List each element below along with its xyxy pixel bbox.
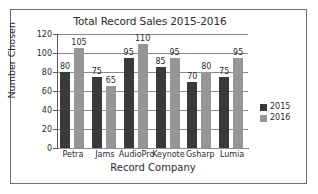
bar-value-label: 70 [181,72,203,81]
legend-item[interactable]: 2016 [260,114,300,122]
bar-value-label: 65 [100,76,122,85]
bar-group: 8595 [153,34,185,148]
y-axis-tick-label: 20 [30,125,52,134]
bar-group: 95110 [121,34,153,148]
bar[interactable] [74,48,84,148]
chart-legend: 20152016 [260,103,300,125]
y-axis-tick-label: 0 [30,144,52,153]
chart-title: Total Record Sales 2015-2016 [45,15,255,27]
x-axis-title: Record Company [57,162,249,173]
bar[interactable] [60,72,70,148]
bar-group: 7595 [216,34,248,148]
bar[interactable] [156,67,166,148]
bar-group: 80105 [57,34,89,148]
bar-value-label: 85 [150,57,172,66]
legend-swatch-icon [260,115,267,122]
x-axis-category-label: AudioPro [119,150,154,159]
bar[interactable] [170,58,180,148]
bar-value-label: 80 [54,62,76,71]
bar-value-label: 105 [68,38,90,47]
y-axis-tick-mark [53,34,58,35]
legend-item[interactable]: 2015 [260,103,300,111]
y-axis-tick-label: 100 [30,49,52,58]
legend-swatch-icon [260,104,267,111]
bar-group: 7080 [184,34,216,148]
y-axis-tick-mark [53,148,58,149]
x-axis-category-label: Gsharp [186,150,215,159]
bar[interactable] [201,72,211,148]
y-axis-title: Number Chosen [6,29,17,99]
y-axis-tick-label: 40 [30,106,52,115]
y-axis-tick-label: 120 [30,30,52,39]
bar[interactable] [187,82,197,149]
y-axis-tick-mark [53,53,58,54]
bar[interactable] [219,77,229,148]
x-axis-category-label: Jams [95,150,114,159]
bar[interactable] [233,58,243,148]
x-axis-category-label: Lumia [220,150,244,159]
x-axis-category-label: Petra [63,150,84,159]
y-axis-tick-mark [53,110,58,111]
y-axis-tick-label: 60 [30,87,52,96]
bar-value-label: 110 [132,34,154,43]
bar-value-label: 95 [227,48,249,57]
y-axis-tick-mark [53,129,58,130]
legend-item-label: 2015 [270,103,290,111]
plot-area: 80105756595110859570807595 [57,34,248,148]
chart-screenshot: Total Record Sales 2015-2016 Number Chos… [0,0,318,194]
bar-value-label: 95 [118,48,140,57]
gridline [57,148,248,149]
y-axis-tick-mark [53,72,58,73]
bar[interactable] [124,58,134,148]
bar-value-label: 95 [164,48,186,57]
y-axis-tick-label: 80 [30,68,52,77]
x-axis-category-label: Keynote [152,150,185,159]
bar-value-label: 75 [213,67,235,76]
y-axis-tick-mark [53,91,58,92]
y-axis-tick-labels: 020406080100120 [28,34,52,148]
bar-value-label: 75 [86,67,108,76]
legend-item-label: 2016 [270,114,290,122]
bar-group: 7565 [89,34,121,148]
bar[interactable] [138,44,148,149]
bar[interactable] [92,77,102,148]
bar[interactable] [106,86,116,148]
